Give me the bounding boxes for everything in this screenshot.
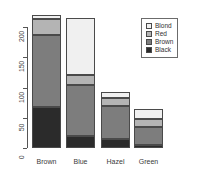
bar-segment-red <box>32 19 61 35</box>
legend-swatch-black-icon <box>146 47 152 53</box>
x-tick-label-blue: Blue <box>66 158 95 165</box>
y-tick-label: 50 <box>18 117 25 137</box>
bar-segment-brown <box>134 127 163 145</box>
y-tick-label: 200 <box>18 27 25 47</box>
legend-label: Blond <box>155 22 172 30</box>
legend-item-blond[interactable]: Blond <box>146 22 173 30</box>
bar-segment-blond <box>66 18 95 75</box>
bar-segment-red <box>134 119 163 127</box>
bar-group <box>66 0 95 173</box>
x-tick-label-green: Green <box>134 158 163 165</box>
bar-segment-red <box>101 98 130 106</box>
bar-segment-blond <box>101 92 130 98</box>
legend-swatch-blond-icon <box>146 23 152 29</box>
y-tick-label: 150 <box>18 57 25 77</box>
legend-item-black[interactable]: Black <box>146 46 173 54</box>
y-tick-label: 0 <box>18 148 25 168</box>
bar-segment-black <box>32 107 61 148</box>
legend-swatch-brown-icon <box>146 39 152 45</box>
legend: BlondRedBrownBlack <box>141 18 178 58</box>
bar-segment-black <box>66 136 95 148</box>
legend-item-red[interactable]: Red <box>146 30 173 38</box>
legend-label: Black <box>155 46 171 54</box>
bar-segment-brown <box>32 35 61 107</box>
bar-segment-blond <box>32 15 61 19</box>
y-axis-line <box>27 27 28 148</box>
legend-item-brown[interactable]: Brown <box>146 38 173 46</box>
y-tick-label: 100 <box>18 87 25 107</box>
legend-rows: BlondRedBrownBlack <box>146 22 173 54</box>
x-tick-label-hazel: Hazel <box>101 158 130 165</box>
legend-label: Brown <box>155 38 173 46</box>
legend-label: Red <box>155 30 167 38</box>
bar-segment-blond <box>134 109 163 119</box>
bar-segment-red <box>66 75 95 85</box>
bar-segment-brown <box>66 85 95 136</box>
bar-segment-brown <box>101 106 130 139</box>
x-tick-label-brown: Brown <box>32 158 61 165</box>
bar-segment-black <box>134 145 163 148</box>
bar-group <box>101 0 130 173</box>
stacked-bar-chart: 050100150200 BrownBlueHazelGreen BlondRe… <box>0 0 199 173</box>
bar-group <box>32 0 61 173</box>
legend-swatch-red-icon <box>146 31 152 37</box>
bar-segment-black <box>101 139 130 148</box>
